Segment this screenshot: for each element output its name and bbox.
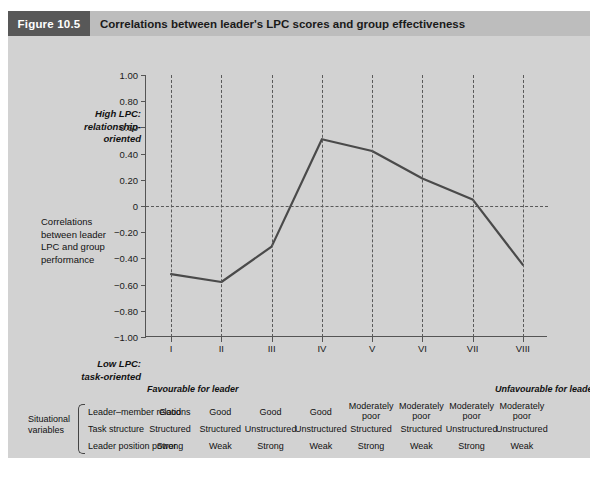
x-axis-tick-label: VII <box>467 343 479 354</box>
situational-cell: Moderately poor <box>399 401 444 421</box>
x-axis-tick-label: II <box>219 343 224 354</box>
situational-cell: Moderately poor <box>500 401 545 421</box>
situational-cell: Unstructured <box>295 424 347 434</box>
x-axis-tick-label: IV <box>317 343 326 354</box>
situational-cell: Structured <box>401 424 443 434</box>
y-axis-tick-label: 1.00 <box>104 70 138 81</box>
y-axis-tick-label: 0.40 <box>104 148 138 159</box>
situational-variables-table: Situational variables Leader–member rela… <box>28 402 584 454</box>
gridline-vertical <box>171 75 172 337</box>
gridline-vertical <box>272 75 273 337</box>
x-axis-tick <box>422 337 423 342</box>
situational-cell: Strong <box>157 441 184 451</box>
y-axis-tick <box>141 180 146 181</box>
situational-variables-title: Situational variables <box>28 414 76 436</box>
x-axis-tick <box>272 337 273 342</box>
situational-cell: Weak <box>309 441 332 451</box>
situational-cell: Unstructured <box>496 424 548 434</box>
gridline-vertical <box>473 75 474 337</box>
gridline-vertical <box>523 75 524 337</box>
situational-cell: Strong <box>257 441 284 451</box>
y-axis-tick-label: −0.20 <box>104 227 138 238</box>
situational-cell: Structured <box>350 424 392 434</box>
x-axis-tick-label: I <box>170 343 173 354</box>
x-axis-tick-label: VIII <box>516 343 530 354</box>
y-axis-tick <box>141 258 146 259</box>
situational-cell: Good <box>260 407 282 417</box>
x-axis-tick <box>171 337 172 342</box>
y-axis-tick <box>141 127 146 128</box>
situational-cell: Good <box>310 407 332 417</box>
y-axis-tick <box>141 285 146 286</box>
y-axis-tick <box>141 101 146 102</box>
figure-number-badge: Figure 10.5 <box>8 11 90 36</box>
figure-body: High LPC: relationship- oriented Correla… <box>8 36 590 458</box>
x-axis-tick <box>473 337 474 342</box>
situational-row-label: Task structure <box>88 424 144 434</box>
unfavourable-label: Unfavourable for leader <box>495 384 590 394</box>
figure-header: Figure 10.5 Correlations between leader'… <box>8 11 590 36</box>
gridline-vertical <box>422 75 423 337</box>
x-axis-tick <box>221 337 222 342</box>
chart-plot-area: 1.000.800.600.400.200−0.20−0.40−0.60−0.8… <box>145 75 547 337</box>
situational-cell: Unstructured <box>245 424 297 434</box>
situational-cell: Good <box>209 407 231 417</box>
situational-cell: Strong <box>358 441 385 451</box>
gridline-vertical <box>221 75 222 337</box>
situational-cell: Weak <box>209 441 232 451</box>
situational-cell: Good <box>159 407 181 417</box>
situational-cell: Moderately poor <box>449 401 494 421</box>
situational-cell: Unstructured <box>446 424 498 434</box>
favourable-label: Favourable for leader <box>147 384 239 394</box>
gridline-vertical <box>372 75 373 337</box>
data-series-leadership-style <box>171 139 523 282</box>
situational-cell: Structured <box>200 424 242 434</box>
zero-reference-line <box>146 206 548 207</box>
situational-cell: Moderately poor <box>349 401 394 421</box>
figure-container: Figure 10.5 Correlations between leader'… <box>8 11 590 458</box>
y-axis-tick-label: 0.60 <box>104 122 138 133</box>
y-axis-tick <box>141 337 146 338</box>
y-axis-tick-label: 0 <box>104 201 138 212</box>
x-axis-tick-label: V <box>369 343 375 354</box>
y-axis-tick-label: 0.80 <box>104 96 138 107</box>
situational-cell: Strong <box>458 441 485 451</box>
gridline-vertical <box>322 75 323 337</box>
x-axis-tick <box>523 337 524 342</box>
y-axis-tick-label: −0.40 <box>104 253 138 264</box>
low-lpc-annotation: Low LPC: task-oriented <box>63 358 141 383</box>
x-axis-tick <box>322 337 323 342</box>
y-axis-tick <box>141 154 146 155</box>
x-axis-tick-label: VI <box>418 343 427 354</box>
situational-cell: Weak <box>510 441 533 451</box>
x-axis-tick-label: III <box>268 343 276 354</box>
y-axis-tick-label: −1.00 <box>104 332 138 343</box>
x-axis-tick <box>372 337 373 342</box>
figure-title: Correlations between leader's LPC scores… <box>100 11 465 36</box>
y-axis-tick-label: −0.60 <box>104 279 138 290</box>
y-axis-tick <box>141 75 146 76</box>
y-axis-tick-label: 0.20 <box>104 174 138 185</box>
brace-icon <box>78 404 85 454</box>
y-axis-tick <box>141 311 146 312</box>
situational-cell: Weak <box>410 441 433 451</box>
y-axis-tick-label: −0.80 <box>104 305 138 316</box>
y-axis-tick <box>141 232 146 233</box>
situational-cell: Structured <box>149 424 191 434</box>
